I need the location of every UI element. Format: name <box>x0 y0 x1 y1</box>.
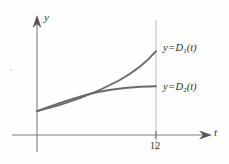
y-axis-label: y <box>44 12 49 23</box>
curve-label-d1-y: y <box>163 42 168 53</box>
curve-label-d1-arg: (t) <box>187 42 197 53</box>
curve-label-d2-subscript: 2 <box>183 86 187 94</box>
curve-label-d1-equals: = <box>168 42 176 53</box>
curve-label-d2-y: y <box>163 81 168 92</box>
graph-figure: y t 12 y=D1(t) y=D2(t) <box>0 0 229 164</box>
curve-label-d1-subscript: 1 <box>183 47 187 55</box>
curve-label-d1: y=D1(t) <box>163 43 197 54</box>
curve-d1 <box>37 51 156 111</box>
t-axis-label: t <box>214 127 217 138</box>
curve-label-d2: y=D2(t) <box>163 82 197 93</box>
tick-label-12: 12 <box>150 141 161 151</box>
curve-label-d2-equals: = <box>168 81 176 92</box>
curve-label-d2-arg: (t) <box>187 81 197 92</box>
scan-artifact-speck <box>10 69 12 71</box>
